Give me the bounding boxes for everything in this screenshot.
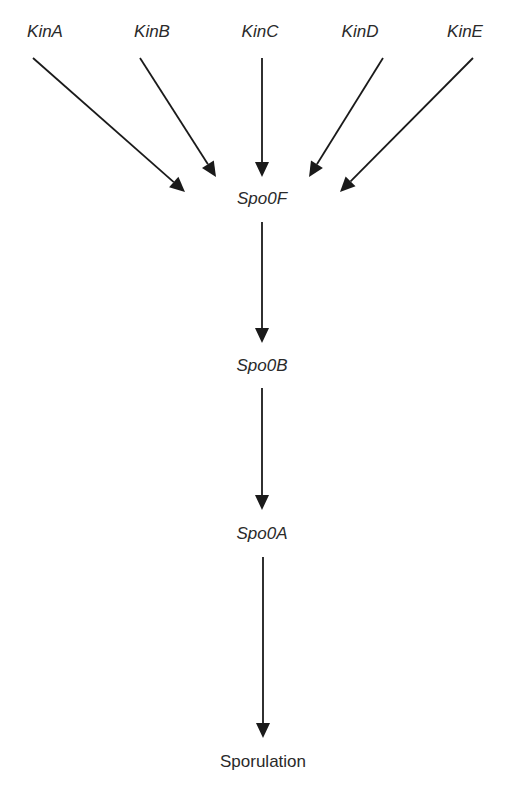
arrow-kinD-to-spo0F bbox=[317, 58, 383, 164]
arrowhead-icon bbox=[202, 161, 216, 177]
node-kinB: KinB bbox=[134, 22, 170, 42]
node-sporulation: Sporulation bbox=[220, 752, 306, 772]
node-kinD: KinD bbox=[342, 22, 379, 42]
node-spo0F: Spo0F bbox=[237, 189, 287, 209]
arrowhead-icon bbox=[255, 328, 269, 343]
arrow-kinB-to-spo0F bbox=[140, 58, 208, 164]
node-spo0B: Spo0B bbox=[236, 356, 287, 376]
node-spo0A: Spo0A bbox=[236, 524, 287, 544]
arrowhead-icon bbox=[255, 495, 269, 510]
arrow-kinE-to-spo0F bbox=[351, 58, 473, 181]
arrowhead-icon bbox=[256, 723, 270, 738]
arrowhead-icon bbox=[309, 161, 323, 177]
arrowhead-icon bbox=[255, 162, 269, 177]
pathway-arrows bbox=[0, 0, 511, 799]
node-kinC: KinC bbox=[242, 22, 279, 42]
node-kinA: KinA bbox=[27, 22, 63, 42]
node-kinE: KinE bbox=[447, 22, 483, 42]
